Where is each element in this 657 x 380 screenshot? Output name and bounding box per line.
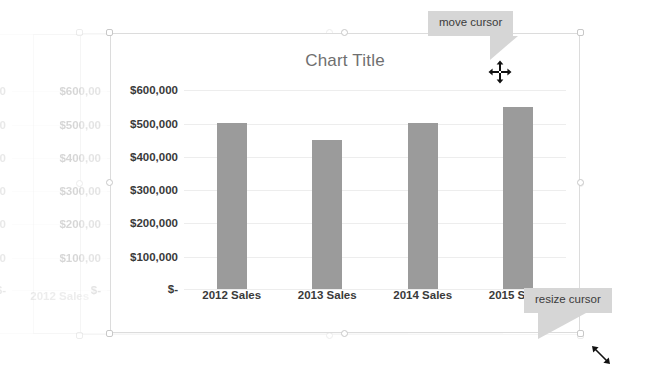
bar-slot (375, 81, 471, 289)
y-tick-label: 00,000 (0, 252, 6, 264)
bar-series[interactable] (184, 81, 566, 289)
y-tick-label: $300,000 (130, 184, 178, 196)
resize-handle-middle-left[interactable] (106, 179, 113, 186)
bar[interactable] (503, 107, 533, 289)
y-tick-label: $400,000 (130, 151, 178, 163)
y-tick-label: 00,000 (0, 218, 6, 230)
y-tick-label: 00,000 (0, 152, 6, 164)
x-tick-label: 2014 Sales (375, 289, 471, 315)
resize-cursor-callout: resize cursor (524, 288, 612, 313)
resize-handle-top-right[interactable] (577, 29, 584, 36)
resize-diagonal-cursor-icon (590, 344, 612, 366)
resize-handle-middle-right[interactable] (577, 179, 584, 186)
resize-handle-bottom-left[interactable] (106, 330, 113, 337)
y-tick-label: $200,000 (130, 217, 178, 229)
resize-handle-bottom-center[interactable] (341, 330, 348, 337)
callout-tail (490, 36, 518, 60)
bar[interactable] (408, 123, 438, 289)
bar-slot (280, 81, 376, 289)
bar-slot (184, 81, 280, 289)
move-cursor-callout-label: move cursor (428, 11, 513, 36)
y-tick-label: $- (168, 283, 178, 295)
y-tick-label: $500,000 (130, 118, 178, 130)
bar-slot (471, 81, 567, 289)
x-tick-label: 2012 Sales (184, 289, 280, 315)
x-tick-label: 2013 Sales (280, 289, 376, 315)
bar[interactable] (217, 123, 247, 289)
plot-area[interactable] (184, 81, 566, 289)
resize-handle-top-center[interactable] (341, 29, 348, 36)
resize-handle-top-left[interactable] (106, 29, 113, 36)
ghost-y-axis: 00,000 00,000 00,000 00,000 00,000 00,00… (0, 82, 12, 290)
callout-tail (538, 313, 586, 339)
resize-cursor-callout-label: resize cursor (524, 288, 612, 313)
y-tick-label: $- (0, 284, 6, 296)
bar[interactable] (312, 140, 342, 289)
y-tick-label: $100,000 (130, 251, 178, 263)
y-tick-label: 00,000 (0, 185, 6, 197)
move-cursor-callout: move cursor (428, 11, 513, 36)
y-tick-label: $600,000 (130, 84, 178, 96)
x-axis[interactable]: 2012 Sales 2013 Sales 2014 Sales 2015 Sa… (184, 289, 566, 315)
y-tick-label: 00,000 (0, 119, 6, 131)
move-cursor-icon (488, 60, 512, 84)
y-tick-label: 00,000 (0, 85, 6, 97)
y-axis[interactable]: $600,000 $500,000 $400,000 $300,000 $200… (110, 81, 184, 289)
